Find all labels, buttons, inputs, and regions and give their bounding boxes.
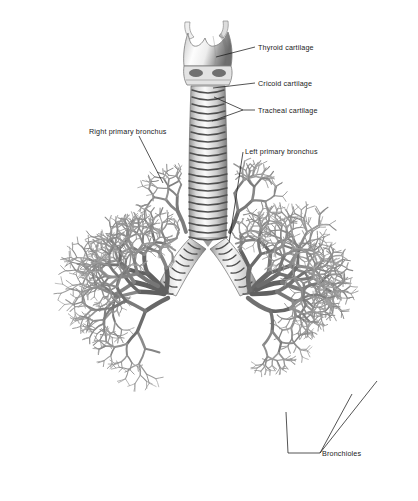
bronchus-segment xyxy=(252,200,265,201)
bronchus-segment xyxy=(90,330,95,338)
bronchus-segment xyxy=(91,297,95,300)
bronchus-segment xyxy=(277,292,293,301)
bronchus-segment xyxy=(122,330,130,331)
bronchus-segment xyxy=(281,346,288,347)
bronchus-segment xyxy=(263,345,267,357)
bronchus-segment xyxy=(141,181,143,186)
bronchus-segment xyxy=(307,206,315,209)
bronchus-segment xyxy=(245,158,251,161)
bronchus-segment xyxy=(163,169,164,174)
bronchus-segment xyxy=(247,223,250,228)
bronchus-segment xyxy=(59,305,65,311)
bronchus-segment xyxy=(140,375,146,381)
bronchus-segment xyxy=(235,181,244,194)
bronchus-segment xyxy=(329,221,335,225)
bronchus-segment xyxy=(322,316,327,318)
bronchus-segment xyxy=(284,359,285,365)
label-thyroid-cartilage: Thyroid cartilage xyxy=(258,44,314,51)
bronchus-segment xyxy=(143,186,149,189)
bronchus-segment xyxy=(271,230,281,231)
bronchus-segment xyxy=(135,375,140,384)
bronchus-segment xyxy=(281,226,282,239)
bronchus-segment xyxy=(77,258,88,259)
bronchus-segment xyxy=(126,379,130,386)
bronchus-segment xyxy=(331,306,340,307)
bronchus-segment xyxy=(110,216,112,222)
bronchus-segment xyxy=(332,256,341,257)
bronchus-segment xyxy=(279,342,282,353)
bronchus-segment xyxy=(113,322,115,332)
bronchus-segment xyxy=(271,311,273,331)
bronchus-segment xyxy=(279,353,284,360)
bronchus-segment xyxy=(319,216,320,226)
bronchus-segment xyxy=(160,216,163,223)
bronchus-segment xyxy=(76,313,81,317)
bronchus-segment xyxy=(288,346,291,353)
bronchus-segment xyxy=(61,277,63,285)
bronchus-segment xyxy=(294,343,300,349)
bronchus-segment xyxy=(105,346,114,347)
bronchus-segment xyxy=(144,254,148,273)
cricoid-foramen-right xyxy=(212,69,226,77)
bronchus-segment xyxy=(264,165,265,172)
bronchus-segment xyxy=(69,273,76,275)
bronchus-segment xyxy=(278,319,282,323)
bronchus-segment xyxy=(236,176,241,180)
bronchus-segment xyxy=(333,252,341,253)
bronchus-segment xyxy=(74,303,75,315)
bronchus-segment xyxy=(263,331,272,345)
bronchus-segment xyxy=(286,319,290,327)
bronchus-segment xyxy=(280,203,282,212)
bronchus-segment xyxy=(252,292,277,294)
bronchus-segment xyxy=(145,349,159,353)
bronchus-segment xyxy=(168,179,169,188)
bronchus-segment xyxy=(252,187,254,201)
label-left-primary-bronchus: Left primary bronchus xyxy=(245,148,318,155)
bronchus-segment xyxy=(331,304,332,311)
left-superior-horn xyxy=(185,22,194,39)
bronchus-segment xyxy=(279,330,282,337)
label-tracheal-cartilage: Tracheal cartilage xyxy=(258,107,318,114)
bronchus-segment xyxy=(66,270,76,271)
bronchus-segment xyxy=(168,188,177,196)
label-right-primary-bronchus: Right primary bronchus xyxy=(89,128,167,135)
bronchus-segment xyxy=(103,361,104,367)
bronchus-segment xyxy=(342,309,350,310)
bronchus-segment xyxy=(139,292,164,294)
bronchus-segment xyxy=(149,383,156,386)
bronchus-segment xyxy=(246,246,253,249)
bronchus-segment xyxy=(277,182,283,186)
bronchus-segment xyxy=(143,181,151,183)
bronchus-segment xyxy=(115,322,122,329)
bronchus-segment xyxy=(243,161,245,169)
bronchus-segment xyxy=(105,333,106,342)
bronchus-segment xyxy=(277,315,282,319)
bronchus-segment xyxy=(330,271,336,272)
bronchus-segment xyxy=(133,239,137,243)
bronchus-segment xyxy=(114,245,121,246)
bronchus-segment xyxy=(78,244,84,249)
bronchus-segment xyxy=(127,344,128,356)
bronchus-segment xyxy=(274,196,282,197)
bronchus-segment xyxy=(268,365,272,368)
leader-right-bronchus xyxy=(139,136,163,183)
bronchus-segment xyxy=(160,237,167,238)
bronchus-segment xyxy=(84,248,90,249)
bronchus-segment xyxy=(112,338,113,345)
bronchus-segment xyxy=(250,213,258,216)
bronchus-segment xyxy=(169,176,176,179)
bronchus-segment xyxy=(324,229,326,234)
bronchus-segment xyxy=(127,355,132,363)
bronchus-segment xyxy=(343,286,350,291)
bronchus-segment xyxy=(269,171,274,176)
bronchus-segment xyxy=(137,311,145,332)
bronchus-segment xyxy=(308,336,312,339)
bronchus-segment xyxy=(139,349,145,364)
bronchus-segment xyxy=(283,196,287,201)
carina xyxy=(203,240,213,247)
bronchus-segment xyxy=(73,250,78,258)
bronchus-segment xyxy=(77,237,78,244)
bronchus-segment xyxy=(115,344,127,347)
larynx xyxy=(184,21,232,85)
bronchus-segment xyxy=(248,298,271,311)
